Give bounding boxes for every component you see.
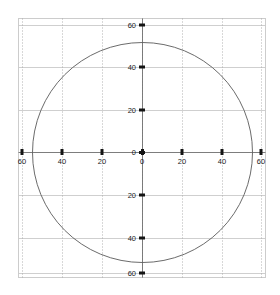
xtick-marker-20 [181, 149, 184, 155]
xtick-label-neg40: 40 [58, 157, 66, 166]
ytick-label-60: 60 [128, 21, 136, 30]
ytick-marker-neg40 [139, 237, 145, 240]
xtick-marker-neg60 [21, 149, 24, 155]
xtick-marker-neg40 [61, 149, 64, 155]
ytick-marker-0 [139, 151, 145, 154]
xtick-marker-neg20 [101, 149, 104, 155]
ytick-label-0: 0 [132, 148, 136, 157]
xtick-label-neg20: 20 [98, 157, 106, 166]
figure-container: 60 40 20 0 20 40 60 60 40 20 0 20 40 60 [0, 0, 280, 295]
ytick-label-20: 20 [128, 106, 136, 115]
plot-background [0, 0, 280, 295]
ytick-label-neg20: 20 [128, 191, 136, 200]
ytick-marker-60 [139, 24, 145, 27]
xtick-label-40: 40 [218, 157, 226, 166]
xtick-label-0: 0 [140, 157, 144, 166]
xtick-label-neg60: 60 [18, 157, 26, 166]
xtick-marker-60 [260, 149, 263, 155]
ytick-marker-neg60 [139, 272, 145, 275]
xtick-label-20: 20 [178, 157, 186, 166]
ytick-label-neg40: 40 [128, 234, 136, 243]
ytick-label-40: 40 [128, 63, 136, 72]
xtick-marker-40 [221, 149, 224, 155]
ytick-label-neg60: 60 [128, 269, 136, 278]
ytick-marker-40 [139, 66, 145, 69]
ytick-marker-neg20 [139, 194, 145, 197]
circle-plot: 60 40 20 0 20 40 60 60 40 20 0 20 40 60 [0, 0, 280, 295]
ytick-marker-20 [139, 109, 145, 112]
xtick-label-60: 60 [257, 157, 265, 166]
